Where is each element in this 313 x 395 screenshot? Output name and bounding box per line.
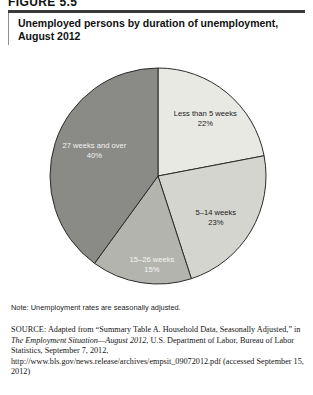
source-text-part-1: Adapted from “Summary Table A. Household…: [46, 325, 300, 334]
pie-slice-label: 15–26 weeks: [130, 255, 175, 264]
chart-source: SOURCE: Adapted from “Summary Table A. H…: [11, 325, 305, 378]
figure-title-line-1: Unemployed persons by duration of unempl…: [18, 17, 278, 29]
pie-slice-label: 27 weeks and over: [63, 141, 127, 150]
pie-slice-group: [50, 68, 266, 284]
pie-chart-svg: Less than 5 weeks22%5–14 weeks23%15–26 w…: [48, 60, 268, 292]
pie-slice-label: 5–14 weeks: [196, 208, 237, 217]
pie-slice-value: 15%: [144, 265, 159, 274]
figure-top-rule: [8, 10, 305, 13]
pie-slice-label: Less than 5 weeks: [174, 109, 237, 118]
source-label: SOURCE:: [11, 325, 46, 334]
pie-chart: Less than 5 weeks22%5–14 weeks23%15–26 w…: [48, 60, 268, 292]
chart-area: Less than 5 weeks22%5–14 weeks23%15–26 w…: [0, 60, 313, 300]
figure-title: Unemployed persons by duration of unempl…: [18, 17, 298, 43]
pie-slice-value: 22%: [198, 119, 213, 128]
figure-left-rule: [8, 13, 9, 45]
figure-number-label: FIGURE 5.5: [8, 0, 77, 9]
figure-title-line-2: August 2012: [18, 30, 298, 43]
pie-slice-value: 40%: [87, 151, 102, 160]
source-publication-title: The Employment Situation—August 2012: [11, 336, 146, 345]
pie-slice-value: 23%: [208, 218, 223, 227]
chart-note: Note: Unemployment rates are seasonally …: [11, 303, 303, 313]
source-url: http://www.bls.gov/news.release/archives…: [11, 357, 221, 366]
